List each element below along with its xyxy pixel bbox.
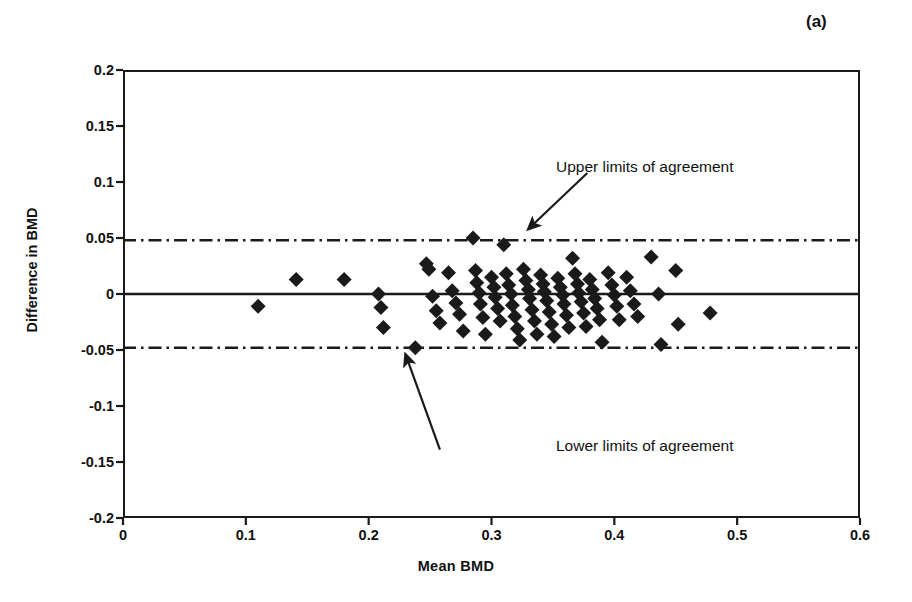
upper-limit-annotation-label: Upper limits of agreement [556,158,733,176]
scatter-point [429,303,444,318]
scatter-point [488,290,503,305]
x-tick-label: 0.5 [727,527,747,543]
scatter-point [654,337,669,352]
scatter-point [529,327,544,342]
scatter-point [499,266,514,281]
scatter-point [561,320,576,335]
scatter-point [456,323,471,338]
scatter-point [576,306,591,321]
scatter-point [441,265,456,280]
scatter-point [505,298,520,313]
scatter-point [475,310,490,325]
scatter-point [251,299,266,314]
scatter-point [579,319,594,334]
x-tick-label: 0.1 [236,527,256,543]
scatter-point [542,304,557,319]
scatter-point [376,320,391,335]
panel-label: (a) [806,12,827,32]
scatter-point [547,329,562,344]
scatter-point [559,308,574,323]
y-tick-label: 0.1 [94,174,114,190]
scatter-point [623,283,638,298]
y-tick-label: 0.15 [86,118,114,134]
scatter-point [507,309,522,324]
x-axis-title: Mean BMD [0,558,912,574]
scatter-point [651,287,666,302]
figure-root: (a) 0.20.150.10.050-0.05-0.1-0.15-0.2 00… [0,0,912,602]
scatter-point [448,295,463,310]
x-tick-label: 0.2 [359,527,379,543]
x-tick-label: 0.3 [481,527,501,543]
y-tick-label: -0.2 [89,510,114,526]
x-axis-tick-labels: 00.10.20.30.40.50.6 [0,527,912,553]
scatter-point [493,313,508,328]
scatter-point [337,272,352,287]
scatter-point [490,301,505,316]
scatter-point [371,287,386,302]
scatter-point [671,317,686,332]
x-tick-label: 0.6 [850,527,870,543]
scatter-point [478,327,493,342]
scatter-point [619,270,634,285]
scatter-point [516,262,531,277]
scatter-point [466,231,481,246]
scatter-point [408,340,423,355]
scatter-point [445,283,460,298]
y-axis-title: Difference in BMD [24,170,40,370]
scatter-point [452,307,467,322]
scatter-point [473,297,488,312]
lower-limit-annotation-label: Lower limits of agreement [556,437,733,455]
x-tick-label: 0 [119,527,127,543]
scatter-point [601,265,616,280]
scatter-point [592,312,607,327]
scatter-point [565,251,580,266]
y-tick-label: 0.2 [94,62,114,78]
scatter-point [527,313,542,328]
scatter-point [609,299,624,314]
scatter-point [432,316,447,331]
scatter-point [425,289,440,304]
scatter-point [612,312,627,327]
scatter-point [590,301,605,316]
y-tick-label: -0.1 [89,398,114,414]
scatter-point [630,309,645,324]
scatter-point [544,317,559,332]
scatter-point [468,263,483,278]
scatter-point [703,306,718,321]
y-tick-label: -0.05 [81,342,114,358]
scatter-point [556,297,571,312]
scatter-point [607,288,622,303]
y-tick-label: -0.15 [81,454,114,470]
scatter-point [595,335,610,350]
scatter-point [510,321,525,336]
scatter-point [289,272,304,287]
scatter-point [626,297,641,312]
y-axis-tick-labels: 0.20.150.10.050-0.05-0.1-0.15-0.2 [0,0,114,602]
plot-canvas [123,70,860,518]
y-tick-label: 0 [106,286,114,302]
scatter-point [373,300,388,315]
scatter-point [525,302,540,317]
scatter-point [644,250,659,265]
scatter-point [512,332,527,347]
x-tick-label: 0.4 [604,527,624,543]
scatter-point [668,263,683,278]
y-tick-label: 0.05 [86,230,114,246]
